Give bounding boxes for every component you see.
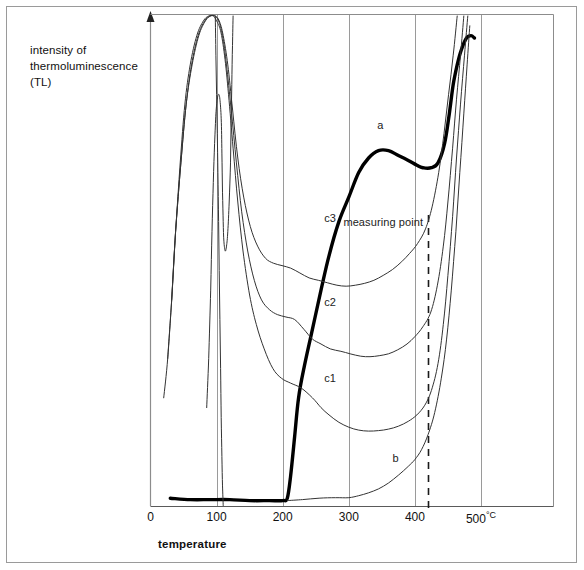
x-tick-300: 300 xyxy=(329,510,369,524)
curve-label-c2: c2 xyxy=(324,296,336,308)
figure-page: intensity of thermoluminescence (TL) xyxy=(0,0,584,570)
curve-label-c1: c1 xyxy=(324,372,336,384)
x-tick-unit: °C xyxy=(486,510,496,520)
chart-figure: intensity of thermoluminescence (TL) xyxy=(0,0,584,570)
x-axis-label: temperature xyxy=(158,538,227,550)
x-tick-100: 100 xyxy=(197,510,237,524)
curve-label-b: b xyxy=(392,452,398,464)
measuring-point-label: measuring point xyxy=(343,216,423,228)
curve-label-c3: c3 xyxy=(324,212,336,224)
plot-canvas xyxy=(0,0,584,570)
x-tick-400: 400 xyxy=(395,510,435,524)
x-tick-200: 200 xyxy=(263,510,303,524)
x-tick-0: 0 xyxy=(131,510,171,524)
curve-label-a: a xyxy=(377,119,383,131)
curve-c0-left-flank xyxy=(215,16,223,506)
x-tick-500: 500°C xyxy=(461,510,501,526)
curve-b xyxy=(287,26,470,501)
y-axis xyxy=(147,11,155,506)
x-tick-500-value: 500 xyxy=(466,512,486,526)
